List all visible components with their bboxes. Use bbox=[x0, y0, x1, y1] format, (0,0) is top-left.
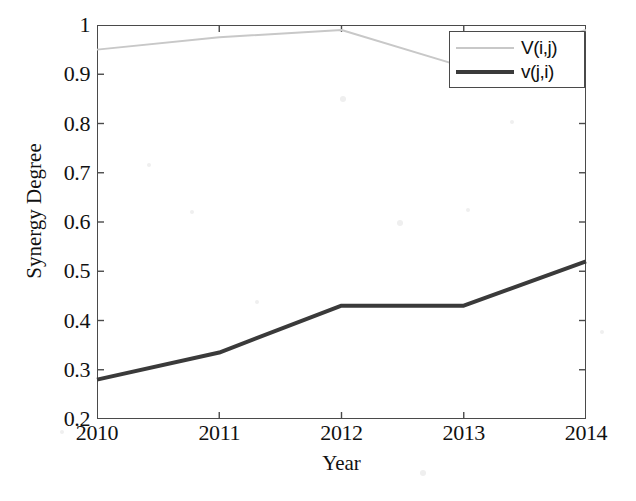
legend: V(i,j) v(j,i) bbox=[449, 31, 585, 88]
chart-figure: 0.20.30.40.50.60.70.80.91 20102011201220… bbox=[0, 0, 636, 501]
legend-swatch-line-icon bbox=[456, 66, 514, 78]
legend-label: V(i,j) bbox=[514, 38, 557, 58]
legend-entry: v(j,i) bbox=[456, 60, 578, 84]
x-axis-tick-label: 2014 bbox=[541, 421, 631, 445]
legend-label: v(j,i) bbox=[514, 62, 554, 82]
legend-entry: V(i,j) bbox=[456, 36, 578, 60]
legend-swatch-line-icon bbox=[456, 42, 514, 54]
x-axis-title: Year bbox=[97, 452, 586, 474]
x-axis-tick-label: 2011 bbox=[174, 421, 264, 445]
x-axis-tick-label: 2013 bbox=[419, 421, 509, 445]
x-axis-tick-label: 2012 bbox=[297, 421, 387, 445]
y-axis-title: Synergy Degree bbox=[23, 91, 45, 331]
x-axis-tick-label: 2010 bbox=[52, 421, 142, 445]
